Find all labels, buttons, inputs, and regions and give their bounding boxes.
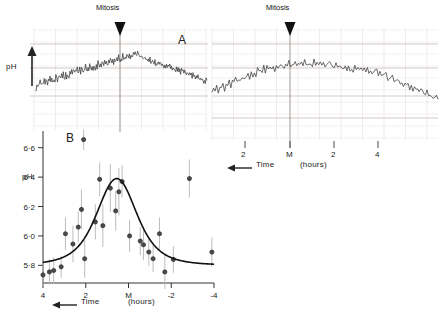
panel-b-datapoint-7 (79, 207, 83, 211)
panel-b-datapoint-3 (59, 265, 63, 269)
panel-b-time-label: Time (81, 297, 99, 306)
panel-b-datapoint-19 (141, 243, 145, 247)
mitosis-arrow-left-icon (115, 22, 126, 36)
panel-b-datapoint-5 (71, 242, 75, 246)
panel-b-datapoint-25 (187, 176, 191, 180)
panel-b-ytick-label-3: 6·0 (23, 232, 35, 241)
panel-b-letter: B (66, 131, 74, 145)
panel-b-datapoint-1 (47, 270, 51, 274)
panel-a-xticks (245, 141, 378, 148)
panel-b-datapoint-21 (151, 257, 155, 261)
panel-b-datapoint-22 (157, 232, 161, 236)
panel-a-ph-label: pH (6, 62, 17, 71)
panel-b-datapoint-17 (127, 234, 131, 238)
panel-b-datapoint-20 (147, 250, 151, 254)
panel-b-datapoint-2 (52, 268, 56, 272)
panel-b-xtick-label-4: -4 (210, 291, 218, 300)
panel-b-datapoint-14 (114, 209, 118, 213)
panel-a-xtick-4: 4 (375, 150, 380, 159)
panel-b-chart: 6·66·46·26·05·842M-2-4 (0, 128, 230, 313)
figure-root: Mitosis Mitosis A pH 2 M 2 4 Time (hours… (0, 0, 440, 321)
mitosis-label-left: Mitosis (96, 3, 119, 12)
panel-b-datapoint-11 (98, 177, 102, 181)
panel-b-datapoint-26 (210, 250, 214, 254)
panel-b-ytick-label-2: 6·2 (23, 203, 35, 212)
panel-a-trace-left (36, 51, 207, 91)
panel-b-datapoint-18 (138, 239, 142, 243)
panel-a-grid-right (212, 28, 438, 140)
panel-b-ytick-label-4: 5·8 (23, 261, 35, 270)
panel-b-datapoint-12 (101, 224, 105, 228)
panel-b-hours-label: (hours) (128, 297, 155, 306)
panel-b-datapoint-9 (83, 257, 87, 261)
panel-b-ytick-label-0: 6·6 (23, 144, 35, 153)
panel-a-time-label: Time (256, 160, 274, 169)
panel-b-datapoint-8 (82, 138, 86, 142)
panel-b-datapoint-4 (63, 232, 67, 236)
panel-a-xtick-2-left: 2 (241, 150, 246, 159)
panel-a-letter: A (178, 33, 186, 47)
panel-b-datapoint-23 (163, 270, 167, 274)
panel-b-xtick-label-3: -2 (168, 291, 176, 300)
panel-b-fit-curve (43, 179, 214, 265)
panel-b-datapoint-0 (41, 273, 45, 277)
panel-b-datapoint-15 (117, 190, 121, 194)
panel-a-time-arrow-icon (227, 163, 253, 173)
mitosis-label-right: Mitosis (266, 3, 289, 12)
panel-b-yticks: 6·66·46·26·05·8 (23, 144, 43, 271)
panel-b-datapoint-6 (76, 225, 80, 229)
mitosis-arrow-right-icon (285, 22, 296, 36)
panel-b-xtick-label-0: 4 (41, 291, 46, 300)
panel-a-xtick-m: M (286, 150, 293, 159)
panel-a-hours-label: (hours) (300, 160, 327, 169)
panel-b-points (41, 129, 214, 289)
panel-b-ph-label: pH (22, 172, 33, 181)
panel-a-trace-right (212, 59, 438, 99)
panel-b-time-arrow-icon (52, 300, 78, 310)
panel-a-xtick-2-right: 2 (331, 150, 336, 159)
